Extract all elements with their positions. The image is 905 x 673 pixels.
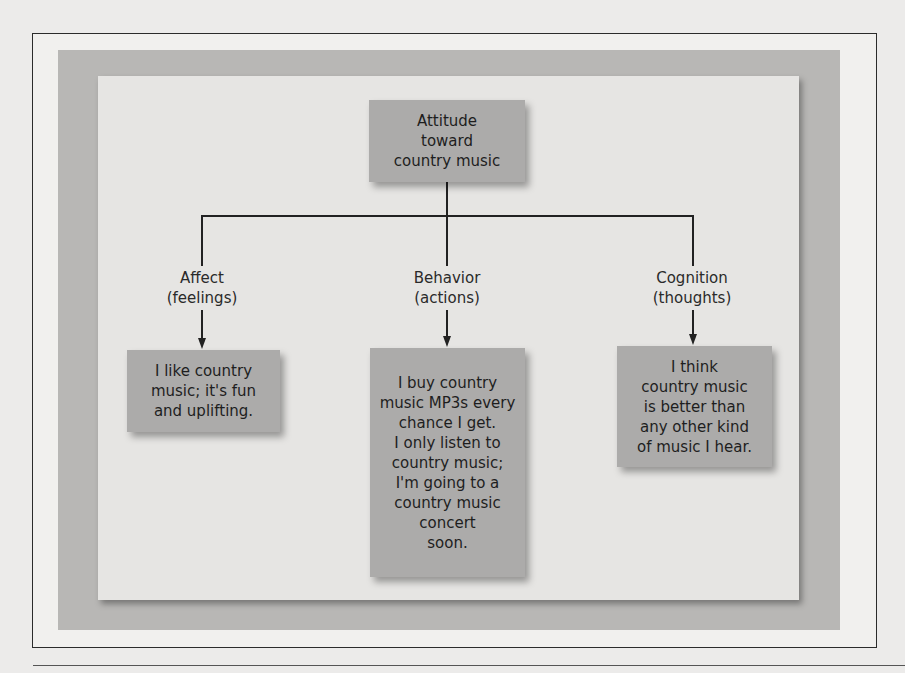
- behavior-arrow-icon: [443, 336, 451, 347]
- page-rule: [33, 665, 905, 666]
- root-node-attitude: Attitude toward country music: [369, 100, 525, 182]
- behavior-label: Behavior (actions): [392, 266, 502, 310]
- affect-arrow-icon: [198, 338, 206, 349]
- root-stem-line: [446, 182, 448, 217]
- behavior-example-box: I buy country music MP3s every chance I …: [370, 348, 525, 577]
- cognition-example-box: I think country music is better than any…: [617, 346, 772, 467]
- affect-label: Affect (feelings): [150, 266, 254, 310]
- cognition-label: Cognition (thoughts): [634, 266, 750, 310]
- affect-example-box: I like country music; it's fun and uplif…: [127, 350, 280, 432]
- cognition-arrow-icon: [689, 334, 697, 345]
